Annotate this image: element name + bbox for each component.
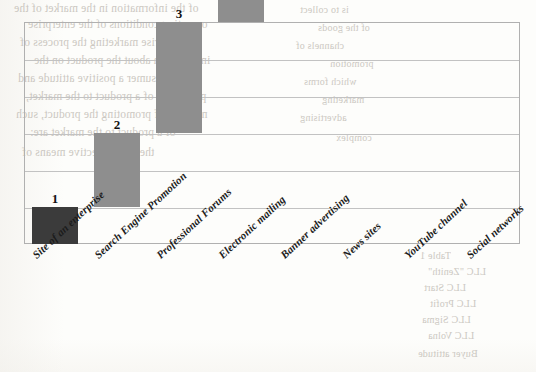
category-label-7: YouTube channel	[402, 197, 469, 261]
category-label-8: Social networks	[464, 202, 526, 261]
category-axis-labels: Site of an enterpriseSearch Engine Promo…	[0, 0, 536, 372]
category-label-6: News sites	[340, 219, 383, 260]
category-label-4: Electronic mailing	[216, 193, 287, 261]
